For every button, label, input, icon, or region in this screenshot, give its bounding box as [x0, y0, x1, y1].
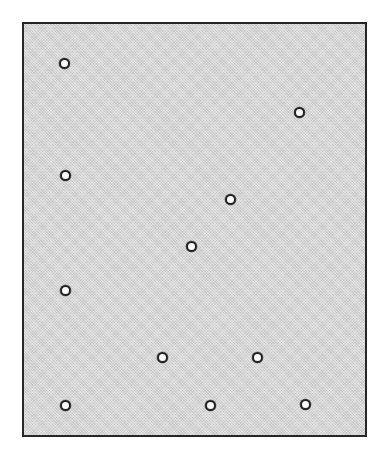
data-point: [205, 400, 216, 411]
data-point: [157, 352, 168, 363]
data-point: [300, 399, 311, 410]
scatter-plot-panel: [22, 22, 367, 437]
data-point: [225, 194, 236, 205]
plot-border: [24, 24, 365, 435]
data-point: [60, 285, 71, 296]
data-point: [60, 170, 71, 181]
data-point: [60, 400, 71, 411]
data-point: [252, 352, 263, 363]
data-point: [59, 58, 70, 69]
data-point: [186, 241, 197, 252]
figure-root: [0, 0, 390, 464]
data-point: [294, 107, 305, 118]
